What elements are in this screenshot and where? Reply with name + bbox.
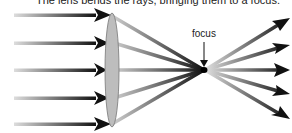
focus-label: focus <box>192 28 216 39</box>
incoming-ray <box>14 63 107 77</box>
diverging-rays <box>205 25 278 113</box>
lens-diagram <box>0 0 292 133</box>
focus-pointer-arrow <box>200 42 208 67</box>
converging-rays <box>112 16 204 124</box>
focus-point <box>201 67 208 73</box>
incoming-ray <box>14 91 109 105</box>
incoming-ray <box>14 8 111 22</box>
incoming-ray <box>14 36 109 50</box>
incoming-rays <box>14 8 111 131</box>
lens <box>105 13 119 127</box>
incoming-ray <box>14 117 111 131</box>
